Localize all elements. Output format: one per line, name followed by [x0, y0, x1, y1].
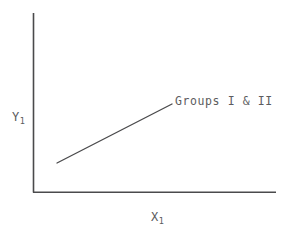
series-annotation-groups-i-and-ii: Groups I & II — [175, 96, 273, 108]
figure-container: Groups I & II Y1 X1 — [0, 0, 283, 240]
plot-area — [0, 0, 283, 240]
x-axis-label-subscript: 1 — [158, 216, 164, 226]
y-axis-label: Y1 — [12, 111, 25, 125]
y-axis-label-subscript: 1 — [19, 116, 25, 126]
x-axis-label: X1 — [151, 211, 164, 225]
